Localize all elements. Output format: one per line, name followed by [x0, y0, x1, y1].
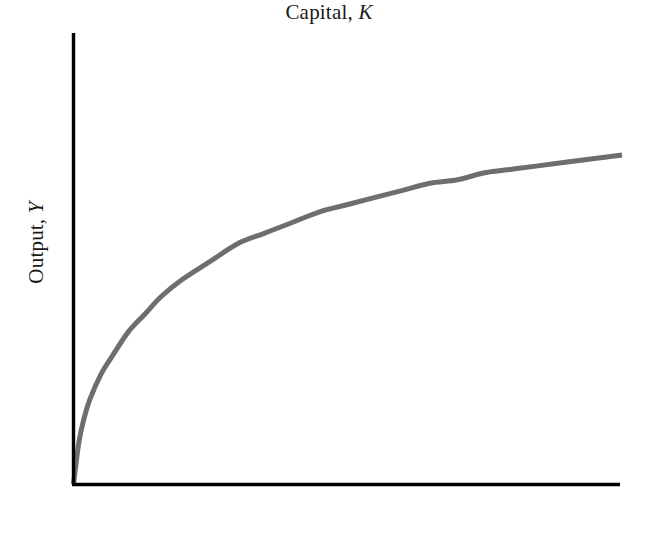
- chart-figure: Output, Y Capital, K: [0, 0, 658, 533]
- production-function-plot: [0, 0, 658, 533]
- y-axis-label-variable: Y: [24, 201, 48, 213]
- production-function-curve: [74, 155, 623, 484]
- y-axis-label: Output, Y: [0, 0, 72, 484]
- y-axis-label-text: Output, Y: [24, 201, 49, 283]
- y-axis-label-word: Output,: [24, 218, 48, 283]
